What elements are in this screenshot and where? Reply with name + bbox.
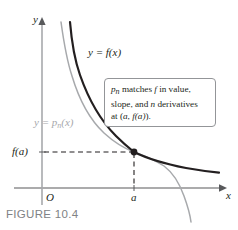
figure-caption: FIGURE 10.4 [6, 208, 78, 220]
callout-box: pn matches f in value, slope, and n deri… [104, 78, 216, 127]
callout-line-1: pn matches f in value, [111, 83, 210, 98]
callout-line-2: slope, and n derivatives [111, 98, 210, 110]
f-curve-label: y = f(x) [88, 47, 121, 58]
callout-line-1-end: in value, [157, 84, 191, 94]
callout-line-1-rest: matches [120, 84, 155, 94]
y-axis-label: y [33, 14, 38, 25]
callout-line-3: at (a, f(a)). [111, 110, 210, 122]
callout-line-3-end: ). [145, 111, 150, 121]
x-tick-label-a: a [131, 192, 137, 203]
callout-fa-symbol: f(a) [132, 111, 145, 121]
pn-curve-label: y = pn(x) [34, 117, 74, 130]
origin-label: O [46, 192, 54, 203]
callout-line-3-pre: at ( [111, 111, 123, 121]
pn-curve-label-head: y = p [34, 116, 57, 128]
callout-line-2-pre: slope, and [111, 99, 151, 109]
figure-container: y x O a f(a) y = f(x) y = pn(x) pn match… [0, 0, 238, 230]
x-axis-label: x [226, 190, 231, 201]
pn-curve-label-tail: (x) [61, 116, 73, 128]
callout-line-2-end: derivatives [155, 99, 198, 109]
tangency-point-marker [131, 149, 138, 156]
y-axis-arrowhead [38, 17, 45, 25]
y-tick-label-fa: f(a) [12, 146, 28, 157]
